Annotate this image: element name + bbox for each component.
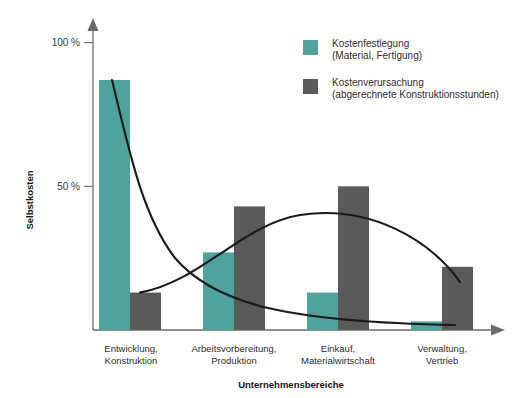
y-axis-arrow-icon xyxy=(88,18,99,31)
bar-teal-3 xyxy=(307,293,338,330)
bar-gray-1 xyxy=(130,293,161,330)
legend-swatch-gray xyxy=(303,79,318,94)
bar-gray-2 xyxy=(234,206,265,330)
bar-group-2 xyxy=(203,206,265,330)
curve-kostenverursachung xyxy=(140,213,460,293)
bar-teal-1 xyxy=(99,80,130,330)
x-category-label-2-line1: Arbeitsvorbereitung, xyxy=(191,343,276,354)
bar-group-3 xyxy=(307,186,369,330)
x-category-label-1-line1: Entwicklung, xyxy=(104,343,157,354)
curve-kostenfestlegung xyxy=(112,80,455,325)
x-category-label-3-line1: Einkauf, xyxy=(321,343,355,354)
x-axis-title: Unternehmensbereiche xyxy=(238,379,344,390)
legend-label-teal-line1: Kostenfestlegung xyxy=(332,38,409,49)
legend-label-gray-line1: Kostenverursachung xyxy=(332,77,424,88)
y-axis-title: Selbstkosten xyxy=(24,170,35,229)
legend-label-teal-line2: (Material, Fertigung) xyxy=(332,50,422,61)
x-category-label-4-line2: Vertrieb xyxy=(426,355,459,366)
x-axis-arrow-icon xyxy=(491,325,505,336)
chart-figure: 100 % 50 % Selbstkosten Ent xyxy=(0,0,522,398)
legend-item-kostenfestlegung: Kostenfestlegung (Material, Fertigung) xyxy=(303,38,422,61)
bar-gray-3 xyxy=(338,186,369,330)
bar-teal-4 xyxy=(411,321,442,330)
y-tick-label-100: 100 % xyxy=(52,37,80,48)
legend-label-gray-line2: (abgerechnete Konstruktionsstunden) xyxy=(332,89,499,100)
legend-swatch-teal xyxy=(303,40,318,55)
bar-gray-4 xyxy=(442,267,473,330)
bar-group-4 xyxy=(411,267,473,330)
legend: Kostenfestlegung (Material, Fertigung) K… xyxy=(303,38,499,100)
x-category-label-4-line1: Verwaltung, xyxy=(417,343,467,354)
y-tick-label-50: 50 % xyxy=(57,181,80,192)
bar-group-1 xyxy=(99,80,161,330)
x-category-labels: Entwicklung, Konstruktion Arbeitsvorbere… xyxy=(104,343,467,366)
x-category-label-2-line2: Produktion xyxy=(211,355,256,366)
x-category-label-1-line2: Konstruktion xyxy=(105,355,158,366)
legend-item-kostenverursachung: Kostenverursachung (abgerechnete Konstru… xyxy=(303,77,499,100)
bar-chart-canvas: 100 % 50 % Selbstkosten Ent xyxy=(0,0,522,398)
x-category-label-3-line2: Materialwirtschaft xyxy=(301,355,375,366)
axes-group xyxy=(84,18,505,336)
